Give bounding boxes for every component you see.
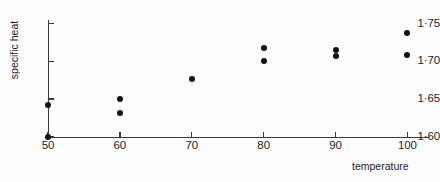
- y-axis-tick: [49, 61, 54, 62]
- x-axis-tick-label: 80: [247, 139, 281, 151]
- data-point: [189, 76, 195, 82]
- x-axis-tick: [119, 132, 120, 137]
- x-axis-line: [48, 137, 429, 138]
- data-point: [45, 102, 51, 108]
- data-point: [404, 30, 410, 36]
- y-axis-tick-label: 1·75: [394, 17, 440, 29]
- x-axis-tick-label: 90: [319, 139, 353, 151]
- data-point: [261, 45, 267, 51]
- data-point: [117, 96, 123, 102]
- y-axis-tick: [49, 98, 54, 99]
- x-axis-tick: [263, 132, 264, 137]
- y-axis-line: [48, 20, 49, 137]
- x-axis-tick-label: 70: [175, 139, 209, 151]
- data-point: [45, 134, 51, 140]
- x-axis-tick: [335, 132, 336, 137]
- data-point: [333, 53, 339, 59]
- y-axis-title: specific heat: [8, 8, 20, 92]
- x-axis-tick: [191, 132, 192, 137]
- x-axis-tick-label: 100: [390, 139, 424, 151]
- data-point: [117, 110, 123, 116]
- data-point: [261, 58, 267, 64]
- x-axis-title: temperature: [352, 160, 409, 172]
- scatter-plot-figure: 1·601·651·701·75 5060708090100 specific …: [0, 0, 440, 182]
- x-axis-tick: [407, 132, 408, 137]
- y-axis-tick-label: 1·70: [394, 54, 440, 66]
- y-axis-tick-label: 1·65: [394, 92, 440, 104]
- x-axis-tick-label: 60: [103, 139, 137, 151]
- x-axis-tick-label: 50: [31, 139, 65, 151]
- y-axis-tick: [49, 23, 54, 24]
